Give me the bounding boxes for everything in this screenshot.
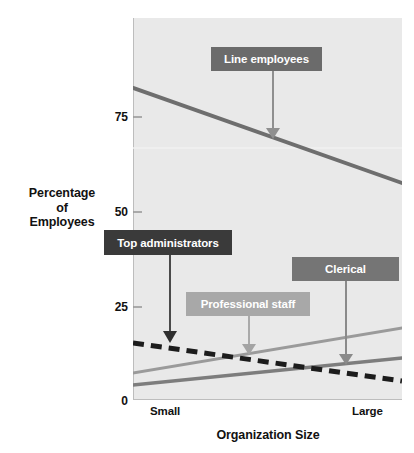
x-axis-title: Organization Size <box>133 428 403 442</box>
callout-label-professional-staff: Professional staff <box>201 298 296 310</box>
callout-leader-line-employees <box>272 71 274 129</box>
callout-arrow-line-employees <box>266 128 280 139</box>
callout-leader-clerical <box>345 281 347 355</box>
y-tick-label-25: 25 <box>88 300 128 314</box>
y-tick-label-0: 0 <box>88 394 128 408</box>
callout-leader-professional-staff <box>248 316 250 345</box>
callout-arrow-top-administrators <box>163 331 177 343</box>
y-tick-label-75: 75 <box>88 110 128 124</box>
y-axis-title-line-1: Percentage <box>4 186 120 201</box>
callout-label-clerical: Clerical <box>325 263 366 275</box>
callout-leader-top-administrators <box>169 255 171 332</box>
y-tick-label-50: 50 <box>88 205 128 219</box>
callout-arrow-clerical <box>339 354 353 365</box>
callout-line-employees: Line employees <box>211 47 322 71</box>
callout-professional-staff: Professional staff <box>186 292 310 316</box>
callout-label-line-employees: Line employees <box>224 53 309 65</box>
x-tick-label-large: Large <box>352 405 383 417</box>
x-tick-label-small: Small <box>150 405 180 417</box>
chart-figure: Percentage of Employees 75 50 25 0 Small… <box>0 0 414 453</box>
callout-arrow-professional-staff <box>242 344 256 355</box>
callout-top-administrators: Top administrators <box>104 230 232 255</box>
callout-clerical: Clerical <box>292 257 399 281</box>
callout-label-top-administrators: Top administrators <box>117 237 219 249</box>
